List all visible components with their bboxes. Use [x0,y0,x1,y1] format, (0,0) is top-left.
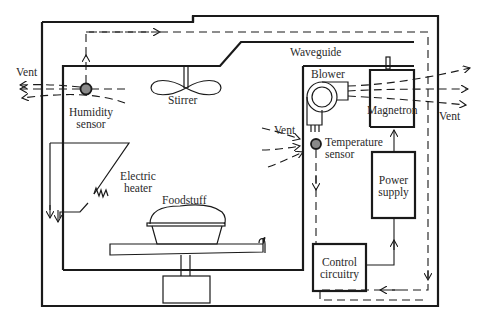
foodstuff [147,205,225,244]
humidity-sensor-label-line1: Humidity [69,106,113,118]
foodstuff-label: Foodstuff [162,194,207,206]
temperature-sensor-icon [311,139,321,149]
control-circuitry-label-line1: Control [322,256,357,268]
magnetron-label: Magnetron [367,104,417,116]
stirrer-label: Stirrer [168,94,197,106]
power-supply-label-line2: supply [378,186,409,198]
electric-heater-label-line2: heater [124,182,152,194]
outer-housing-top [42,16,438,22]
temperature-sensor-label: Temperature sensor [325,136,383,160]
vent-middle-label: Vent [274,124,295,136]
blower-label: Blower [311,68,345,80]
humidity-sensor-label-line2: sensor [76,118,105,130]
temperature-sensor-label-line1: Temperature [325,136,383,148]
electric-heater-label-line1: Electric [120,170,156,182]
vent-left-label: Vent [16,66,37,78]
power-supply-label-line1: Power [379,174,408,186]
humidity-sensor-label: Humidity sensor [68,106,114,130]
waveguide-label: Waveguide [290,46,341,58]
control-circuitry-label: Control circuitry [313,256,366,280]
microwave-oven-diagram: Vent Humidity sensor Stirrer Waveguide B… [0,0,486,326]
stirrer [151,66,221,95]
magnetron [370,57,414,127]
humidity-sensor-icon [81,84,92,95]
control-circuitry-label-line2: circuitry [320,268,359,280]
blower [307,82,348,132]
vent-right-label: Vent [439,110,460,122]
outer-housing [42,16,438,306]
electric-heater-label: Electric heater [116,170,160,194]
power-supply-label: Power supply [372,174,415,198]
temperature-sensor-label-line2: sensor [325,148,354,160]
diagram-canvas [0,0,486,326]
